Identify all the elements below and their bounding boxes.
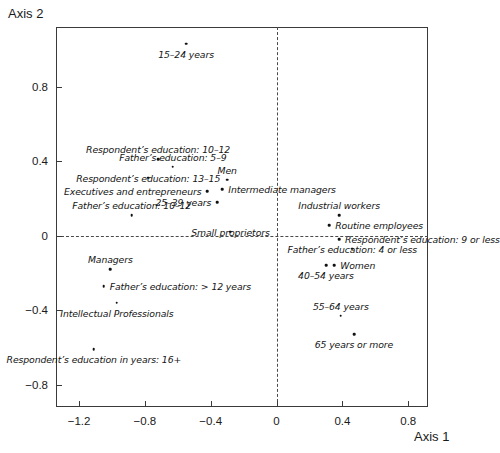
data-point [353, 333, 356, 336]
x-tick [277, 401, 278, 407]
point-label: Intellectual Professionals [60, 307, 173, 318]
point-label: 15–24 years [158, 48, 214, 59]
data-point [206, 190, 209, 193]
plot-area [56, 27, 428, 407]
point-label: Father’s education: > 12 years [110, 280, 251, 291]
point-label: Men [218, 164, 237, 175]
x-tick [79, 401, 80, 407]
data-point [102, 285, 105, 288]
x-tick-label: 0.8 [400, 415, 416, 427]
point-label: 40–54 years [298, 270, 354, 281]
data-point [339, 314, 342, 317]
data-point [109, 268, 112, 271]
x-tick-label: −1.2 [68, 415, 91, 427]
x-tick [408, 401, 409, 407]
y-tick-label: −0.8 [14, 379, 48, 391]
x-axis-title: Axis 1 [414, 429, 449, 444]
point-label: 65 years or more [315, 339, 393, 350]
y-axis-title: Axis 2 [8, 6, 43, 21]
x-tick-label: −0.8 [134, 415, 157, 427]
point-label: Managers [88, 254, 133, 265]
data-point [216, 201, 219, 204]
x-tick-label: 0.4 [334, 415, 350, 427]
data-point [185, 42, 188, 45]
x-tick-label: −0.4 [199, 415, 222, 427]
zero-line-horizontal [56, 236, 428, 237]
point-label: Executives and entrepreneurs [64, 185, 201, 196]
data-point [333, 264, 336, 267]
data-point [221, 188, 224, 191]
point-label: Intermediate managers [228, 184, 336, 195]
point-label: Father’s education: 4 or less [288, 243, 418, 254]
x-tick-label: 0 [273, 415, 279, 427]
data-point [328, 224, 331, 227]
point-label: Father’s education: 5–9 [119, 151, 226, 162]
data-point [325, 264, 328, 267]
data-point [116, 301, 119, 304]
y-tick-label: 0 [14, 230, 48, 242]
x-tick [342, 401, 343, 407]
y-tick [56, 87, 62, 88]
y-tick-label: −0.4 [14, 304, 48, 316]
y-tick [56, 310, 62, 311]
data-point [172, 165, 175, 168]
data-point [226, 178, 229, 181]
y-tick-label: 0.4 [14, 155, 48, 167]
point-label: Routine employees [335, 220, 423, 231]
point-label: Industrial workers [298, 200, 380, 211]
x-tick [211, 401, 212, 407]
x-tick [145, 401, 146, 407]
y-tick [56, 236, 62, 237]
point-label: Father’s education: 10–12 [72, 200, 191, 211]
y-tick-label: 0.8 [14, 81, 48, 93]
y-tick [56, 385, 62, 386]
point-label: Respondent’s education in years: 16+ [7, 354, 182, 365]
point-label: 55–64 years [313, 300, 369, 311]
data-point [130, 214, 133, 217]
y-tick [56, 161, 62, 162]
data-point [338, 238, 341, 241]
data-point [338, 214, 341, 217]
zero-line-vertical [277, 27, 278, 407]
point-label: Respondent’s education: 13–15 [76, 172, 220, 183]
data-point [93, 348, 96, 351]
